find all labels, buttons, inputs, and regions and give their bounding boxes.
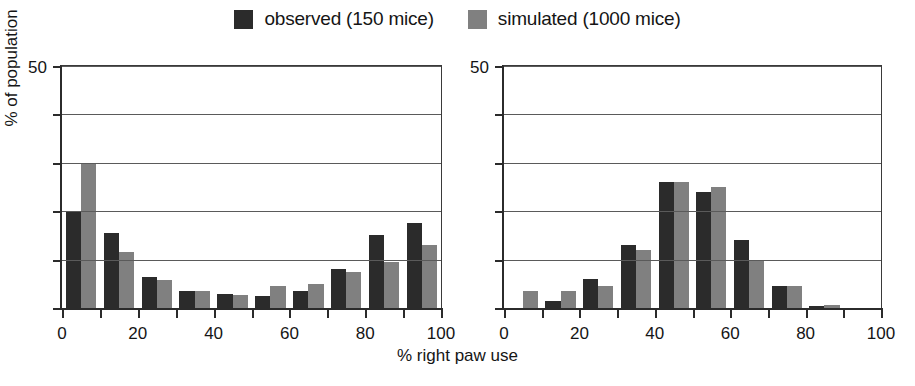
gridline [62,114,441,115]
bar [255,296,270,308]
bar [346,272,361,308]
bar [81,163,96,308]
x-tick [542,308,544,318]
bar [561,291,576,308]
bar [545,301,560,308]
bar [195,291,210,308]
gridline [504,260,881,261]
bar [384,262,399,308]
x-tick [289,308,291,318]
bar [407,223,422,308]
gridline [62,66,441,67]
x-tick [327,308,329,318]
y-tick-label: 50 [28,59,47,76]
x-axis-label: % right paw use [0,346,915,366]
legend-label-observed: observed (150 mice) [264,8,433,30]
x-tick [214,308,216,318]
y-tick [495,114,504,116]
plot-area-left: 050020406080100 [60,65,442,310]
gridline [62,163,441,164]
bar [523,291,538,308]
legend-label-simulated: simulated (1000 mice) [498,8,681,30]
x-tick-label: 80 [356,325,375,342]
y-tick [53,211,62,213]
bar [308,284,323,308]
x-tick [881,308,883,318]
bar [142,277,157,308]
gridline [504,114,881,115]
x-tick-label: 40 [204,325,223,342]
gridline [504,211,881,212]
legend-swatch-simulated [468,10,487,29]
x-tick-label: 80 [796,325,815,342]
bar [809,306,824,308]
y-tick: 0 [53,308,62,310]
y-tick [495,163,504,165]
x-tick [843,308,845,318]
y-tick [495,211,504,213]
bar [233,295,248,308]
y-tick [495,260,504,262]
x-tick [655,308,657,318]
x-tick [138,308,140,318]
bar [621,245,636,308]
bar [787,286,802,308]
x-tick [441,308,443,318]
bar [734,240,749,308]
x-tick [252,308,254,318]
bar [749,260,764,308]
bar [270,286,285,308]
bar [369,235,384,308]
legend-entry-observed: observed (150 mice) [234,8,433,30]
bar [422,245,437,308]
x-tick [693,308,695,318]
x-tick [403,308,405,318]
y-tick [53,163,62,165]
bar [293,291,308,308]
x-tick-label: 100 [867,325,895,342]
x-tick-label: 0 [57,325,66,342]
bar [179,291,194,308]
x-tick-label: 20 [128,325,147,342]
gridline [62,260,441,261]
figure: % of population 050020406080100 05002040… [0,44,915,386]
x-tick-label: 60 [721,325,740,342]
legend-entry-simulated: simulated (1000 mice) [468,8,681,30]
x-tick [730,308,732,318]
y-tick: 0 [495,308,504,310]
bar [331,269,346,308]
bars-right [504,66,881,308]
bar [157,280,172,308]
y-tick: 50 [53,66,62,68]
gridline [504,163,881,164]
gridline [62,211,441,212]
y-tick [53,260,62,262]
y-axis-label: % of population [2,0,22,168]
bar [119,252,134,308]
x-tick [806,308,808,318]
bars-left [62,66,441,308]
x-tick [768,308,770,318]
x-tick-label: 40 [645,325,664,342]
x-tick-label: 100 [427,325,455,342]
x-tick-label: 20 [570,325,589,342]
gridline [504,66,881,67]
x-tick-label: 60 [280,325,299,342]
x-tick [62,308,64,318]
x-tick-label: 0 [499,325,508,342]
plot-area-right: 050020406080100 [502,65,882,310]
y-tick [53,114,62,116]
bar [217,294,232,308]
y-tick: 50 [495,66,504,68]
bar [711,187,726,308]
bar [598,286,613,308]
legend-swatch-observed [234,10,253,29]
bar [772,286,787,308]
bar [104,233,119,308]
y-tick-label: 50 [470,59,489,76]
bar [824,305,839,308]
bar [674,182,689,308]
x-tick [579,308,581,318]
chart-legend: observed (150 mice) simulated (1000 mice… [0,8,915,30]
bar [696,192,711,308]
